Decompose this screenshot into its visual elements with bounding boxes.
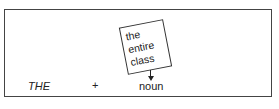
plus-sign: + — [92, 79, 98, 91]
term-the: THE — [28, 80, 50, 92]
term-noun: noun — [139, 80, 163, 92]
annotation-box: the entire class — [119, 19, 172, 75]
